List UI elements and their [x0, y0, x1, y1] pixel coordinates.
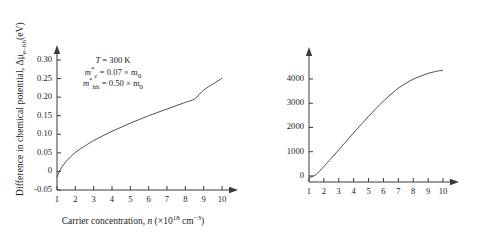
right-y-tick-2: 2000 — [274, 121, 304, 131]
left-annot-temperature: T = 300 K — [74, 55, 152, 67]
left-x-tick-9: 10 — [215, 194, 229, 204]
right-x-tick-5: 6 — [376, 186, 390, 196]
left-x-tick-7: 8 — [178, 194, 192, 204]
left-x-tick-5: 6 — [142, 194, 156, 204]
chart-panel-right: Peak optical gain, gpeak(ħω) ( cm−1) T =… — [243, 0, 485, 237]
left-annot-electron-mass: m*c = 0.07 × m0 — [74, 67, 152, 79]
right-y-tick-3: 3000 — [274, 97, 304, 107]
right-plot-svg — [243, 0, 485, 237]
left-x-tick-2: 3 — [87, 194, 101, 204]
left-x-tick-3: 4 — [105, 194, 119, 204]
right-y-tick-4: 4000 — [274, 73, 304, 83]
left-x-tick-0: 1 — [50, 194, 64, 204]
left-x-tick-8: 9 — [197, 194, 211, 204]
right-y-tick-0: 0 — [274, 170, 304, 180]
left-y-tick-7: 0.30 — [26, 54, 52, 64]
left-annot-hole-mass: m*hh = 0.50 × m0 — [74, 78, 152, 90]
right-x-tick-3: 4 — [347, 186, 361, 196]
left-y-tick-3: 0.10 — [26, 128, 52, 138]
left-y-tick-0: -0.05 — [26, 184, 52, 194]
left-y-tick-1: 0 — [26, 165, 52, 175]
right-x-tick-8: 9 — [421, 186, 435, 196]
right-x-tick-1: 2 — [317, 186, 331, 196]
right-axes — [306, 47, 459, 185]
left-y-tick-5: 0.20 — [26, 91, 52, 101]
left-y-tick-6: 0.25 — [26, 73, 52, 83]
right-x-tick-4: 5 — [362, 186, 376, 196]
right-x-tick-0: 1 — [302, 186, 316, 196]
left-y-title-subscript: e–hh — [20, 40, 28, 54]
right-x-tick-2: 3 — [332, 186, 346, 196]
left-x-tick-1: 2 — [68, 194, 82, 204]
left-data-curve — [57, 78, 222, 177]
chart-panel-left: Difference in chemical potential, Δμe–hh… — [0, 0, 242, 237]
right-x-tick-7: 8 — [406, 186, 420, 196]
left-x-tick-6: 7 — [160, 194, 174, 204]
left-y-title-main: Difference in chemical potential, Δμ — [15, 54, 25, 196]
left-y-axis-title: Difference in chemical potential, Δμe–hh… — [15, 22, 25, 196]
left-y-title-unit: (eV) — [15, 22, 25, 40]
right-y-tick-1: 1000 — [274, 146, 304, 156]
right-x-tick-9: 10 — [436, 186, 450, 196]
figure-container: Difference in chemical potential, Δμe–hh… — [0, 0, 485, 237]
right-x-tick-6: 7 — [391, 186, 405, 196]
left-x-tick-4: 5 — [123, 194, 137, 204]
left-y-tick-4: 0.15 — [26, 110, 52, 120]
left-x-axis-title: Carrier concentration, n (×1018 cm−3) — [28, 216, 238, 226]
right-data-curve — [309, 70, 443, 177]
left-annotation-block: T = 300 K m*c = 0.07 × m0 m*hh = 0.50 × … — [74, 55, 152, 90]
left-y-tick-2: 0.05 — [26, 147, 52, 157]
